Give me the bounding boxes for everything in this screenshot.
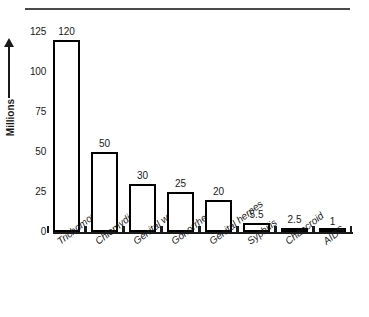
x-axis-tick xyxy=(237,226,239,233)
x-axis-tick xyxy=(275,226,277,233)
bar-value-label: 25 xyxy=(161,179,200,189)
bar-value-label: 50 xyxy=(85,139,124,149)
figure-container: Millions 0255075100125 120Trichomoniasis… xyxy=(0,0,369,317)
bar-value-label: 20 xyxy=(199,187,238,197)
x-axis-tick xyxy=(313,226,315,233)
bar-value-label: 120 xyxy=(47,27,86,37)
x-axis-tick xyxy=(350,226,352,233)
x-axis-tick xyxy=(199,226,201,233)
bars-group: 120Trichomoniasis50Chlamydia30Genital wa… xyxy=(0,0,369,317)
bar-value-label: 30 xyxy=(123,171,162,181)
x-axis-tick xyxy=(85,226,87,233)
bar xyxy=(53,40,80,232)
plot-area: Millions 0255075100125 120Trichomoniasis… xyxy=(0,0,369,317)
bar-value-label: 1 xyxy=(313,217,352,227)
x-axis-tick xyxy=(47,226,49,233)
x-axis-tick xyxy=(123,226,125,233)
x-axis-tick xyxy=(161,226,163,233)
